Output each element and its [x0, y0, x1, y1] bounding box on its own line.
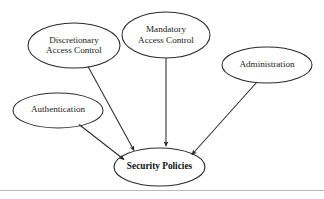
edge-administration-to-security-policies — [192, 82, 257, 155]
node-ellipse-mandatory-access-control[interactable] — [122, 12, 210, 58]
node-ellipse-discretionary-access-control[interactable] — [28, 23, 120, 68]
edge-authentication-to-security-policies — [79, 125, 124, 160]
edge-discretionary-to-security-policies — [88, 67, 134, 151]
node-ellipse-administration[interactable] — [222, 47, 312, 83]
diagram-vector-layer — [0, 0, 324, 199]
node-ellipse-security-policies[interactable] — [114, 148, 205, 186]
diagram-canvas: Discretionary Access Control Mandatory A… — [0, 0, 324, 199]
node-ellipse-authentication[interactable] — [13, 93, 103, 128]
footer-divider — [0, 190, 324, 191]
